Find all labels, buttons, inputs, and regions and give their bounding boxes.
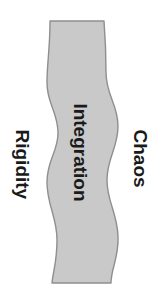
label-chaos: Chaos xyxy=(131,130,150,174)
label-rigidity: Rigidity xyxy=(13,130,32,174)
diagram-canvas: Rigidity Integration Chaos xyxy=(0,0,167,301)
label-integration: Integration xyxy=(71,93,90,213)
